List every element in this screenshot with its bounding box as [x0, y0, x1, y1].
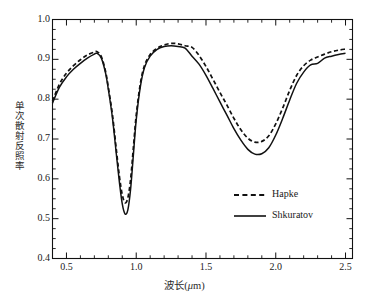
legend-item-hapke: Hapke	[232, 186, 342, 207]
legend-item-shkuratov: Shkuratov	[232, 207, 342, 228]
x-tick-label: 1.0	[121, 261, 151, 272]
legend-label-hapke: Hapke	[272, 188, 298, 199]
plot-area	[0, 0, 369, 304]
x-tick-label: 0.5	[51, 261, 81, 272]
x-tick-label: 2.5	[331, 261, 361, 272]
chart-figure: 单次散射反照率 0.40.50.60.70.80.91.0 0.51.01.52…	[0, 0, 369, 304]
x-axis-title-prefix: 波长(	[164, 280, 188, 291]
x-tick-label: 1.5	[191, 261, 221, 272]
series-line-hapke	[53, 43, 346, 203]
x-axis-tick-labels: 0.51.01.52.02.5	[0, 261, 369, 277]
x-axis-title-suffix: m)	[193, 280, 205, 291]
x-tick-label: 2.0	[261, 261, 291, 272]
x-axis-title: 波长(μm)	[0, 277, 369, 292]
chart-legend: Hapke Shkuratov	[232, 186, 342, 228]
legend-label-shkuratov: Shkuratov	[272, 209, 313, 220]
